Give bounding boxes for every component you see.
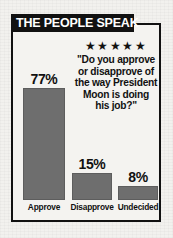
page-title: THE PEOPLE SPEAK <box>16 16 139 30</box>
bar-rect-approve: Approve <box>23 88 65 200</box>
question-block: ★★★★★ "Do you approve or disapprove of t… <box>71 40 161 112</box>
bar-group-disapprove: 15% Disapprove <box>72 157 112 200</box>
bar-label-approve: Approve <box>17 200 71 212</box>
bar-rect-disapprove: Disapprove <box>72 173 112 200</box>
question-line-5: his job?" <box>71 100 161 112</box>
bar-label-disapprove: Disapprove <box>66 200 118 212</box>
panel-title-band: THE PEOPLE SPEAK <box>11 14 134 32</box>
question-line-3: the way President <box>71 77 161 89</box>
bar-value-undecided: 8% <box>118 170 158 185</box>
bar-value-approve: 77% <box>23 72 65 87</box>
poll-infographic-panel: ★★★★★ "Do you approve or disapprove of t… <box>11 23 161 222</box>
question-line-2: or disapprove of <box>71 66 161 78</box>
poll-question: "Do you approve or disapprove of the way… <box>71 54 161 112</box>
bar-label-undecided: Undecided <box>112 200 164 212</box>
star-rating-icon: ★★★★★ <box>71 40 161 53</box>
bar-rect-undecided: Undecided <box>118 186 158 200</box>
question-line-4: Moon is doing <box>71 89 161 101</box>
question-line-1: "Do you approve <box>71 54 161 66</box>
bar-group-undecided: 8% Undecided <box>118 170 158 200</box>
bar-value-disapprove: 15% <box>72 157 112 172</box>
bar-group-approve: 77% Approve <box>23 72 65 200</box>
